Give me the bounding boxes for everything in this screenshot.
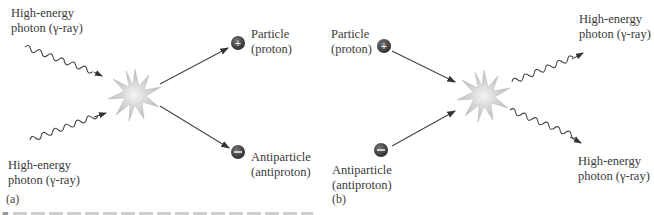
label-line: Particle xyxy=(331,27,372,42)
label-line: photon (γ-ray) xyxy=(579,27,651,42)
caption-clipped-text xyxy=(13,212,313,215)
arrow-from-particle xyxy=(392,51,455,82)
figure-caption-clipped: ■ xyxy=(2,208,313,215)
gamma-ray-wave-icon xyxy=(511,53,583,84)
label-line: photon (γ-ray) xyxy=(8,173,80,188)
collision-starburst-icon xyxy=(457,70,510,122)
particle-label-a: Particle (proton) xyxy=(251,27,292,57)
antiparticle-label-a: Antiparticle (antiproton) xyxy=(251,150,311,180)
antiparticle-label-b: Antiparticle (antiproton) xyxy=(332,163,392,193)
photon-label-top-left: High-energy photon (γ-ray) xyxy=(11,6,83,36)
label-line: Particle xyxy=(251,27,292,42)
antiproton-minus-icon xyxy=(231,145,245,159)
proton-plus-icon: + xyxy=(377,39,391,53)
photon-label-bottom-left: High-energy photon (γ-ray) xyxy=(8,158,80,188)
label-line: photon (γ-ray) xyxy=(11,21,83,36)
collision-starburst-icon xyxy=(108,69,161,121)
antiproton-minus-icon xyxy=(374,143,388,157)
label-line: High-energy xyxy=(11,6,83,21)
photon-label-top-right: High-energy photon (γ-ray) xyxy=(579,12,651,42)
label-line: (antiproton) xyxy=(251,165,311,180)
arrow-to-particle xyxy=(160,48,228,84)
caption-marker-icon: ■ xyxy=(2,208,9,215)
label-line: (antiproton) xyxy=(332,178,392,193)
label-line: High-energy xyxy=(579,12,651,27)
label-line: (proton) xyxy=(251,42,292,57)
label-line: (proton) xyxy=(331,42,372,57)
proton-plus-icon: + xyxy=(231,36,245,50)
label-line: High-energy xyxy=(578,154,650,169)
label-line: photon (γ-ray) xyxy=(578,169,650,184)
gamma-ray-wave-icon xyxy=(24,45,102,76)
label-line: Antiparticle xyxy=(332,163,392,178)
gamma-ray-wave-icon xyxy=(29,113,106,142)
particle-label-b: Particle (proton) xyxy=(331,27,372,57)
panel-a-tag: (a) xyxy=(6,192,19,206)
arrow-to-antiparticle xyxy=(160,106,229,148)
diagram-canvas: + + xyxy=(0,0,654,215)
svg-text:+: + xyxy=(235,38,241,49)
gamma-ray-wave-icon xyxy=(509,108,581,143)
label-line: High-energy xyxy=(8,158,80,173)
panel-b-tag: (b) xyxy=(332,192,346,206)
photon-label-bottom-right: High-energy photon (γ-ray) xyxy=(578,154,650,184)
arrow-from-antiparticle xyxy=(392,111,455,146)
label-line: Antiparticle xyxy=(251,150,311,165)
svg-text:+: + xyxy=(381,41,387,52)
